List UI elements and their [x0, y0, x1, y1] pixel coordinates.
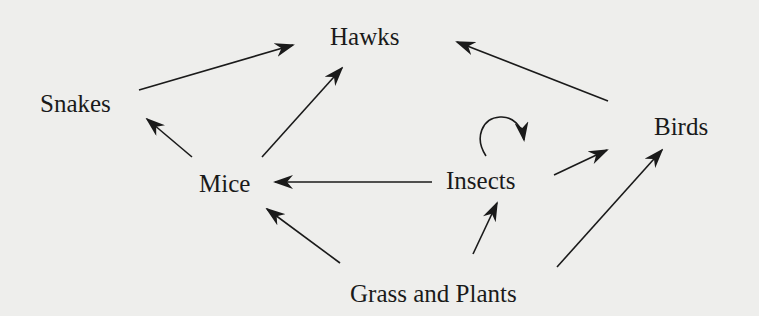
node-insects: Insects — [446, 168, 515, 193]
arrow-snakes-to-hawks — [139, 45, 293, 90]
node-snakes: Snakes — [40, 91, 111, 116]
arrow-insects-to-birds — [554, 150, 607, 175]
node-hawks: Hawks — [330, 24, 399, 49]
arrow-mice-to-hawks — [262, 68, 342, 157]
arrow-mice-to-snakes — [147, 119, 192, 157]
node-grass: Grass and Plants — [350, 281, 517, 306]
node-mice: Mice — [199, 171, 250, 196]
node-birds: Birds — [654, 114, 708, 139]
arrow-birds-to-hawks — [457, 42, 608, 101]
arrow-grass-to-insects — [473, 203, 497, 254]
self-loop-arrow-insects — [480, 117, 524, 156]
arrow-grass-to-mice — [267, 209, 340, 263]
arrow-grass-to-birds — [557, 150, 662, 267]
